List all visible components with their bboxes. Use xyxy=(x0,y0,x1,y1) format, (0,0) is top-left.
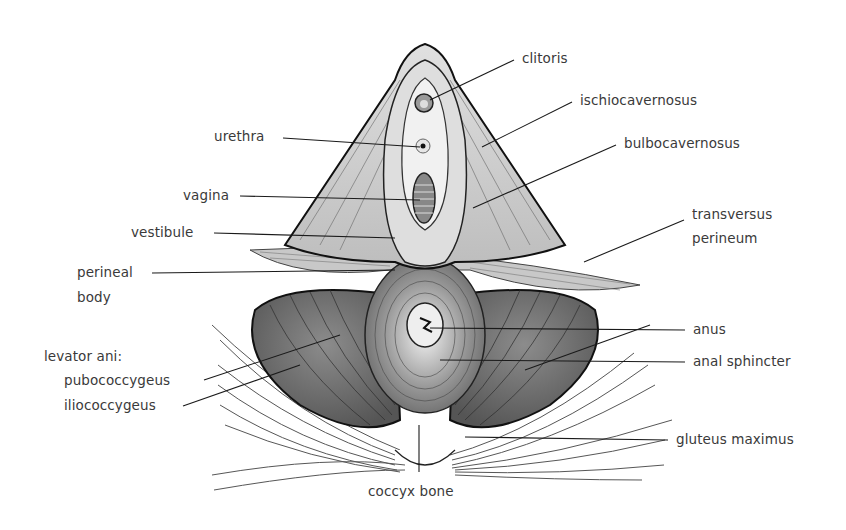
anatomy-diagram: clitoris ischiocavernosus bulbocavernosu… xyxy=(0,0,846,530)
label-iliococcygeus: iliococcygeus xyxy=(64,397,156,414)
label-ischiocavernosus: ischiocavernosus xyxy=(580,92,697,109)
label-perineal: perineal xyxy=(77,264,133,281)
label-anus: anus xyxy=(693,321,726,338)
label-bulbocavernosus: bulbocavernosus xyxy=(624,135,740,152)
label-levator-ani: levator ani: xyxy=(44,348,122,365)
label-clitoris: clitoris xyxy=(522,50,568,67)
vagina-shape xyxy=(413,173,435,223)
label-urethra: urethra xyxy=(214,128,265,145)
label-anal-sphincter: anal sphincter xyxy=(693,353,791,370)
label-vagina: vagina xyxy=(183,187,229,204)
label-transversus: transversus xyxy=(692,206,772,223)
anus-shape xyxy=(407,303,443,347)
label-vestibule: vestibule xyxy=(131,224,193,241)
label-coccyx-bone: coccyx bone xyxy=(368,483,454,500)
label-perineum: perineum xyxy=(692,230,758,247)
label-body: body xyxy=(77,289,111,306)
label-gluteus-maximus: gluteus maximus xyxy=(676,431,794,448)
coccyx-shape xyxy=(395,450,455,465)
label-pubococcygeus: pubococcygeus xyxy=(64,372,170,389)
